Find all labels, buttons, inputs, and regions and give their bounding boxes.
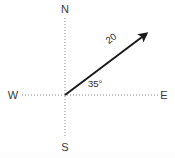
vector-magnitude-label: 20 <box>103 31 118 46</box>
vector-arrow <box>65 34 146 95</box>
compass-label-east: E <box>160 89 167 101</box>
compass-label-north: N <box>61 3 69 15</box>
diagram-canvas: N S W E 20 35° <box>0 0 175 158</box>
vector-compass-diagram: N S W E 20 35° <box>0 0 175 158</box>
bottom-spacer-band <box>0 152 175 158</box>
compass-label-west: W <box>8 89 19 101</box>
vector-angle-label: 35° <box>88 78 103 89</box>
